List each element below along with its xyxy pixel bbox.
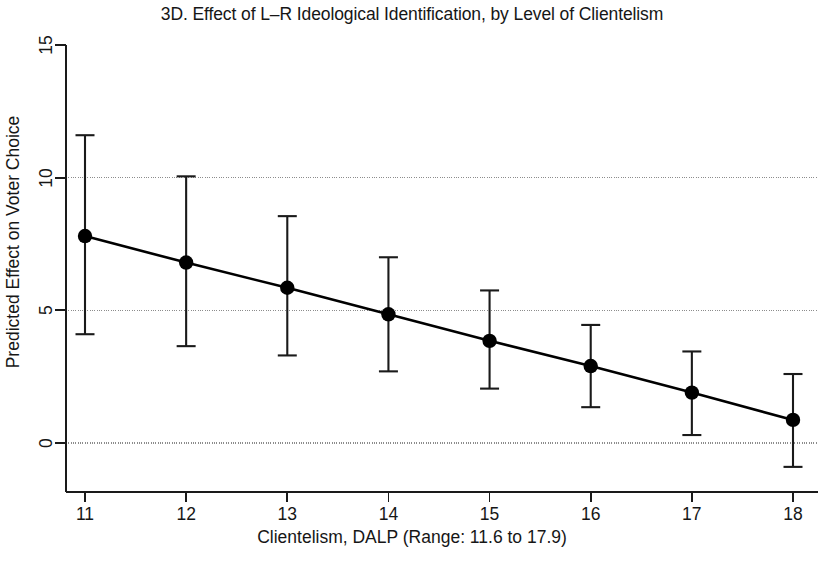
errorbar-group — [76, 135, 803, 467]
x-tick-label: 16 — [581, 504, 600, 525]
y-tick-label: 10 — [35, 156, 57, 200]
x-tick-label: 17 — [682, 504, 701, 525]
data-point-marker — [381, 307, 395, 321]
y-tick-label: 15 — [35, 23, 57, 67]
x-tick-label: 12 — [176, 504, 195, 525]
plot-area — [0, 0, 824, 563]
axis-group — [55, 45, 818, 502]
data-point-marker — [786, 413, 800, 427]
gridline-group — [66, 178, 818, 443]
x-tick-label: 15 — [480, 504, 499, 525]
x-tick-label: 13 — [278, 504, 297, 525]
x-tick-label: 11 — [76, 504, 94, 525]
x-tick-label: 14 — [379, 504, 398, 525]
x-tick-label: 18 — [783, 504, 802, 525]
data-point-marker — [179, 255, 193, 269]
data-point-marker — [78, 229, 92, 243]
data-point-marker — [584, 359, 598, 373]
data-point-marker — [280, 281, 294, 295]
y-tick-label: 0 — [35, 421, 57, 465]
data-point-marker — [685, 385, 699, 399]
data-point-marker — [482, 334, 496, 348]
y-tick-label: 5 — [35, 288, 57, 332]
chart-figure: 3D. Effect of L–R Ideological Identifica… — [0, 0, 824, 563]
